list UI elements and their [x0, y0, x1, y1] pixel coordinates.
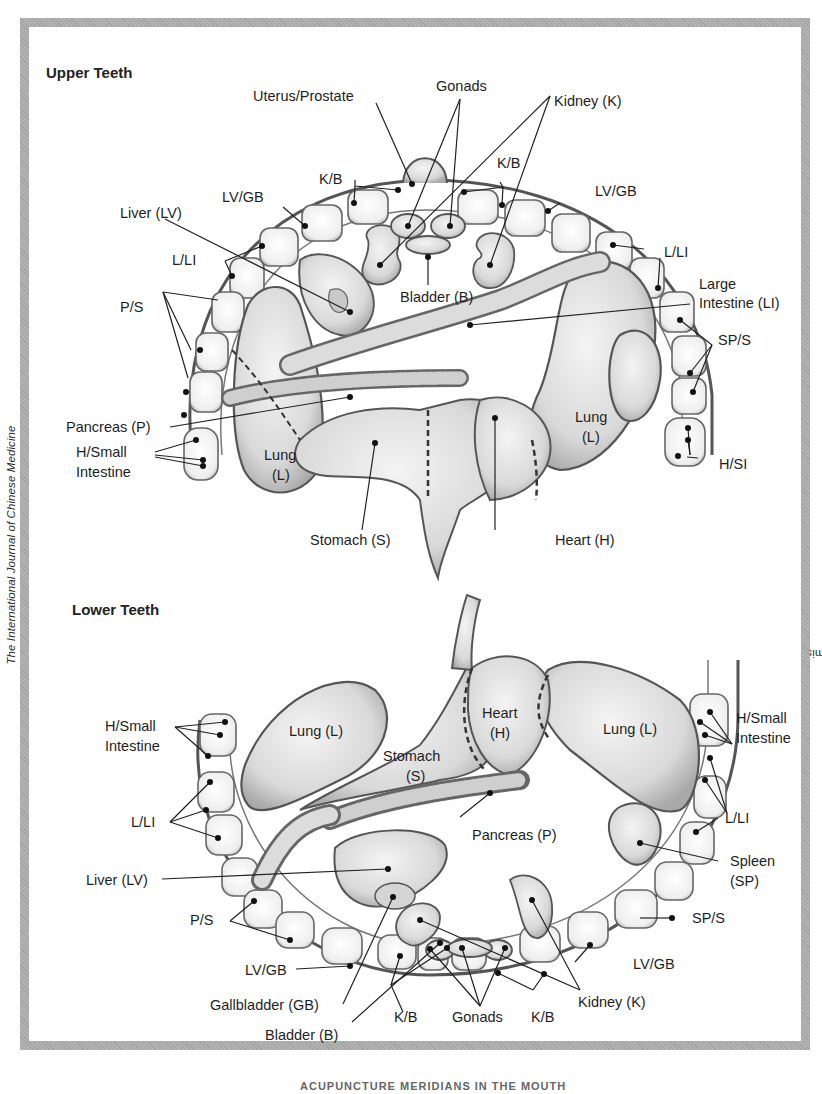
- label-bladder: Bladder (B): [400, 289, 473, 305]
- label-lower-lli-right: L/LI: [725, 810, 749, 826]
- label-lower-lli-left: L/LI: [131, 814, 155, 830]
- label-lower-hsi-left-1: H/Small: [105, 718, 156, 734]
- label-hsi-right: H/SI: [719, 456, 747, 472]
- label-hsi-left-1: H/Small: [76, 444, 127, 460]
- label-lower-hsi-right-1: H/Small: [736, 710, 787, 726]
- label-lli-left: L/LI: [172, 252, 196, 268]
- label-kidney: Kidney (K): [554, 93, 622, 109]
- label-lower-kb-left: K/B: [394, 1009, 417, 1025]
- label-lower-spleen-2: (SP): [730, 873, 759, 889]
- label-lower-pancreas: Pancreas (P): [472, 827, 557, 843]
- label-lung-right-1: Lung: [575, 409, 607, 425]
- teeth-organ-diagram: Uterus/Prostate Gonads Kidney (K) K/B K/…: [0, 0, 822, 1094]
- label-lung-right-2: (L): [582, 429, 600, 445]
- label-lung-left-1: Lung: [264, 447, 296, 463]
- label-lower-lvgb-left: LV/GB: [245, 962, 287, 978]
- label-gonads: Gonads: [436, 78, 487, 94]
- label-pancreas: Pancreas (P): [66, 419, 151, 435]
- label-lower-liver: Liver (LV): [86, 872, 148, 888]
- label-lower-kb-right: K/B: [531, 1009, 554, 1025]
- label-large-intestine-1: Large: [699, 276, 736, 292]
- upper-arch: Uterus/Prostate Gonads Kidney (K) K/B K/…: [66, 78, 780, 578]
- label-lower-stomach-1: Stomach: [383, 748, 440, 764]
- label-lower-hsi-right-2: Intestine: [736, 730, 791, 746]
- label-lli-right: L/LI: [664, 244, 688, 260]
- label-liver: Liver (LV): [120, 205, 182, 221]
- label-lower-lung-left: Lung (L): [289, 723, 343, 739]
- label-lower-heart-1: Heart: [482, 705, 517, 721]
- label-lower-kidney: Kidney (K): [578, 994, 646, 1010]
- label-lower-sps: SP/S: [692, 910, 725, 926]
- label-lower-lung-right: Lung (L): [603, 721, 657, 737]
- label-lower-spleen-1: Spleen: [730, 853, 775, 869]
- label-lung-left-2: (L): [272, 467, 290, 483]
- lower-arch: H/Small Intestine H/Small Intestine Lung…: [86, 595, 791, 1043]
- label-lvgb-left: LV/GB: [222, 189, 264, 205]
- label-ps: P/S: [120, 299, 143, 315]
- label-kb-right: K/B: [497, 155, 520, 171]
- label-lower-gallbladder: Gallbladder (GB): [210, 997, 319, 1013]
- label-large-intestine-2: Intestine (LI): [699, 295, 780, 311]
- label-lower-heart-2: (H): [490, 725, 510, 741]
- label-lower-hsi-left-2: Intestine: [105, 738, 160, 754]
- label-stomach: Stomach (S): [310, 532, 391, 548]
- label-uterus-prostate: Uterus/Prostate: [253, 88, 354, 104]
- label-lvgb-right: LV/GB: [595, 183, 637, 199]
- label-sps: SP/S: [718, 332, 751, 348]
- label-kb-left: K/B: [319, 171, 342, 187]
- label-lower-bladder: Bladder (B): [265, 1027, 338, 1043]
- label-lower-stomach-2: (S): [406, 768, 425, 784]
- figure-caption: ACUPUNCTURE MERIDIANS IN THE MOUTH: [300, 1080, 566, 1092]
- label-heart: Heart (H): [555, 532, 615, 548]
- label-hsi-left-2: Intestine: [76, 464, 131, 480]
- label-lower-ps: P/S: [190, 912, 213, 928]
- label-lower-gonads: Gonads: [452, 1009, 503, 1025]
- label-lower-lvgb-right: LV/GB: [633, 956, 675, 972]
